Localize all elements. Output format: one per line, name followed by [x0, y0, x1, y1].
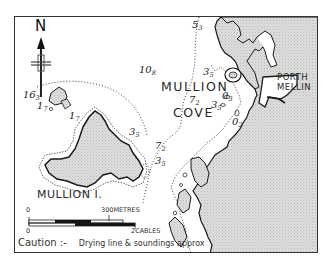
place-mullion: MULLION	[161, 81, 228, 94]
place-cove: COVE	[173, 107, 214, 120]
islet	[229, 72, 237, 78]
sounding: 35	[129, 127, 140, 139]
scale-cables-zero: 0	[26, 228, 30, 235]
sounding: 03	[222, 91, 233, 103]
north-arrow-icon	[31, 37, 51, 97]
mainland	[193, 17, 318, 253]
north-label: N	[35, 19, 46, 34]
sounding: 108	[139, 65, 156, 77]
mullion-island	[45, 111, 143, 187]
sounding: 35	[211, 100, 222, 112]
sounding: 35	[203, 67, 214, 79]
sounding: 53	[192, 20, 203, 32]
south-rocks	[191, 157, 209, 187]
chart-frame: N MULLION COVE PORTH MELLIN MULLION I. 1…	[14, 16, 318, 253]
coastline-drawing	[15, 17, 318, 253]
place-mellin: MELLIN	[277, 83, 311, 93]
caution-heading: Caution :-	[18, 237, 67, 248]
sounding: 72	[189, 95, 200, 107]
caution-text: Drying line & soundings approx	[79, 239, 205, 248]
scale-bar	[29, 215, 135, 229]
sounding: 35	[155, 156, 166, 168]
place-mullion-island: MULLION I.	[37, 189, 102, 200]
scale-metres-label: 300METRES	[101, 207, 140, 214]
sounding: 17	[37, 101, 48, 113]
sounding: 17	[69, 111, 80, 123]
sounding: 72	[155, 141, 166, 153]
scale-metres-zero: 0	[26, 207, 30, 214]
sounding: 02	[232, 117, 243, 129]
scale-cables-label: 2CABLES	[131, 228, 160, 235]
caution-note: Caution :-Drying line & soundings approx	[18, 238, 205, 248]
